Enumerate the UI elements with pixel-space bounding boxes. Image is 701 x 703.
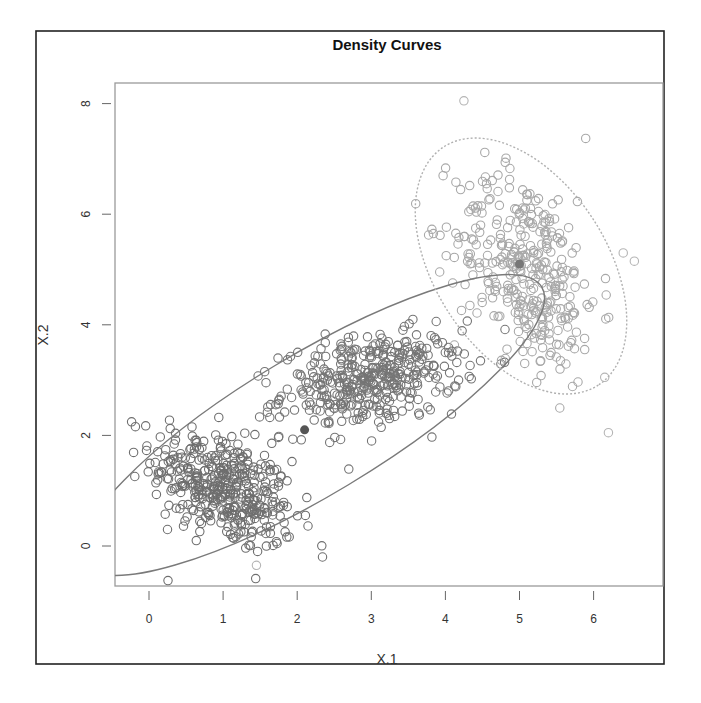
y-axis: 02468 (79, 100, 111, 549)
cluster-3-points (412, 134, 613, 412)
x-tick-label: 2 (294, 612, 301, 626)
density-ellipses (46, 100, 670, 623)
x-tick-label: 3 (368, 612, 375, 626)
x-tick-label: 0 (146, 612, 153, 626)
cluster-2-points (254, 315, 509, 473)
y-tick-label: 4 (79, 321, 93, 328)
center-ellipse-2 (515, 259, 524, 268)
density-curves-chart: Density Curves 0123456 02468 X.1 X.2 (0, 0, 701, 703)
y-tick-label: 2 (79, 432, 93, 439)
chart-title: Density Curves (332, 36, 441, 53)
y-tick-label: 8 (79, 100, 93, 107)
x-tick-label: 5 (516, 612, 523, 626)
x-tick-label: 4 (442, 612, 449, 626)
x-tick-label: 1 (220, 612, 227, 626)
y-axis-label: X.2 (35, 324, 51, 345)
scatter-points (75, 97, 638, 585)
y-tick-label: 6 (79, 211, 93, 218)
x-axis-label: X.1 (376, 651, 397, 667)
center-ellipse-1 (300, 425, 309, 434)
y-tick-label: 0 (79, 542, 93, 549)
x-axis: 0123456 (146, 591, 598, 626)
x-tick-label: 6 (590, 612, 597, 626)
